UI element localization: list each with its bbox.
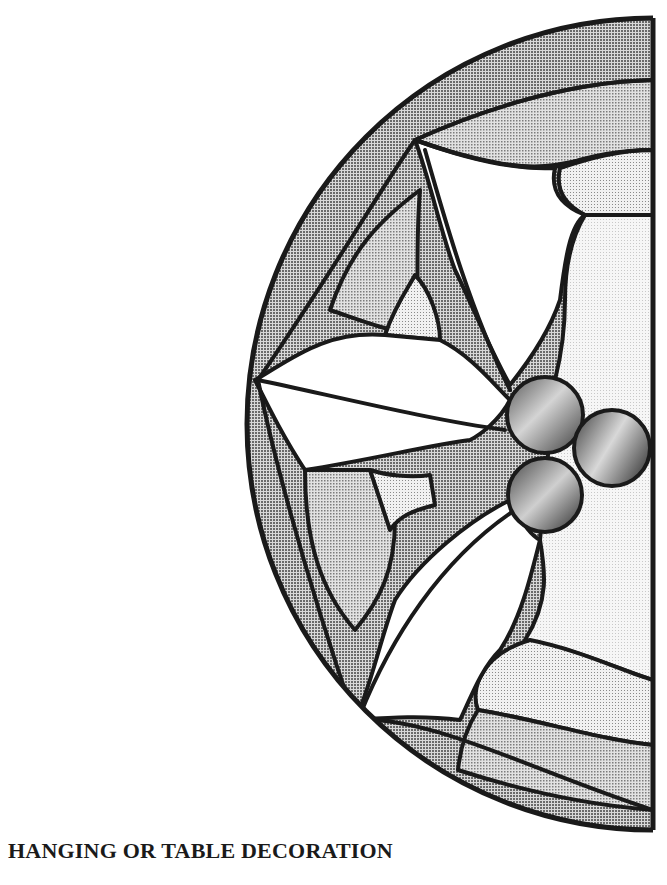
berry-bottom (508, 458, 582, 532)
berry-top (507, 377, 583, 453)
stained-glass-pattern (0, 0, 667, 885)
berry-right (574, 410, 650, 486)
caption: HANGING OR TABLE DECORATION (8, 838, 393, 864)
